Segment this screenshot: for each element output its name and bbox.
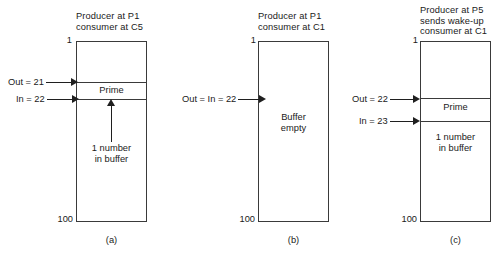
panel-a-in-pointer: In = 22 <box>16 93 79 105</box>
panel-c-out-arrow-shaft <box>390 99 414 100</box>
panel-a-title: Producer at P1 consumer at C5 <box>76 11 196 32</box>
panel-c: Producer at P5 sends wake-up consumer at… <box>330 0 498 255</box>
panel-c-in-label: In = 23 <box>359 115 388 127</box>
panel-b-arrow-shaft <box>238 99 260 100</box>
panel-c-out-arrow-head <box>413 95 420 103</box>
panel-a-out-label: Out = 21 <box>8 76 44 88</box>
panel-c-caption: (c) <box>420 235 491 245</box>
panel-a-out-pointer: Out = 21 <box>8 76 78 88</box>
panel-a-in-arrow-shaft <box>47 99 73 100</box>
panel-b-out-in-label: Out = In = 22 <box>182 93 236 105</box>
panel-b: Producer at P1 consumer at C1 1 Buffer e… <box>185 0 335 255</box>
panel-c-in-pointer: In = 23 <box>359 115 420 127</box>
panel-a-inner-note: 1 number in buffer <box>76 143 147 165</box>
panel-c-bottom-index: 100 <box>397 214 417 224</box>
panel-a-caption: (a) <box>76 235 147 245</box>
panel-b-out-in-pointer: Out = In = 22 <box>182 93 266 105</box>
panel-a-top-index: 1 <box>56 35 72 45</box>
panel-a-out-arrow-head <box>71 78 78 86</box>
panel-c-divider-out <box>421 98 490 99</box>
panel-a: Producer at P1 consumer at C5 1 Prime 1 … <box>0 0 200 255</box>
panel-a-note-arrow-shaft <box>111 105 112 142</box>
panel-a-bottom-index: 100 <box>53 214 73 224</box>
panel-c-out-label: Out = 22 <box>352 93 388 105</box>
panel-a-in-label: In = 22 <box>16 93 45 105</box>
panel-c-inner-note: 1 number in buffer <box>420 132 491 154</box>
panel-b-bottom-index: 100 <box>235 214 255 224</box>
panel-a-in-arrow-head <box>72 95 79 103</box>
panel-c-title: Producer at P5 sends wake-up consumer at… <box>420 5 498 37</box>
panel-a-out-arrow-shaft <box>46 82 72 83</box>
panel-a-prime-label: Prime <box>77 85 146 96</box>
panel-b-arrow-head <box>259 95 266 103</box>
panel-c-in-arrow-shaft <box>390 121 414 122</box>
panel-b-caption: (b) <box>258 235 329 245</box>
panel-c-in-arrow-head <box>413 117 420 125</box>
panel-c-divider-in <box>421 121 490 122</box>
panel-c-prime-label: Prime <box>421 102 490 113</box>
panel-a-divider-out <box>77 82 146 83</box>
panel-b-top-index: 1 <box>240 35 256 45</box>
panel-c-out-pointer: Out = 22 <box>352 93 420 105</box>
panel-a-note-arrow-head <box>107 99 115 106</box>
panel-c-top-index: 1 <box>402 35 418 45</box>
figure-canvas: Producer at P1 consumer at C5 1 Prime 1 … <box>0 0 498 255</box>
panel-b-inner-note: Buffer empty <box>258 112 329 134</box>
